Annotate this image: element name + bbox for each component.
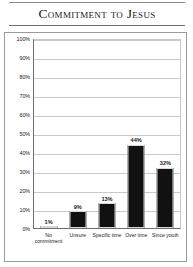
y-axis-tick-label: 40% [20,150,31,156]
bar-value-label: 9% [74,204,82,210]
chart-page: Commitment to Jesus 100%90%80%70%60%50%4… [0,0,193,267]
y-axis-tick-label: 10% [20,207,31,213]
x-axis-tick-label: Specific time [92,232,122,238]
bar-value-label: 1% [45,219,53,225]
bar-slot: 44% [122,39,151,228]
bar-slot: 1% [34,39,63,228]
y-axis-tick-label: 100% [17,36,30,42]
x-axis-tick-label: Since youth [150,232,180,238]
bar-slot: 32% [151,39,180,228]
title-block: Commitment to Jesus [9,2,185,30]
y-axis-tick-label: 90% [20,55,31,61]
y-axis-labels: 100%90%80%70%60%50%40%30%20%10%0% [0,0,33,267]
y-axis-tick-label: 80% [20,74,31,80]
plot-wrapper: 1%9%13%44%32% [33,39,181,229]
y-axis-tick-label: 20% [20,188,31,194]
bar[interactable] [69,211,86,228]
y-axis-tick-label: 50% [20,131,31,137]
y-axis-tick-label: 70% [20,93,31,99]
y-axis-tick-label: 30% [20,169,31,175]
x-axis-tick-label: Over time [121,232,151,238]
title-rule-bottom [9,25,185,26]
page-title: Commitment to Jesus [9,3,185,25]
x-axis-tick-label: Unsure [63,232,93,238]
bar-slot: 9% [63,39,92,228]
x-axis-tick-label: No commitment [34,232,64,245]
bar-value-label: 32% [160,160,171,166]
y-axis-tick-label: 0% [22,226,30,232]
bar[interactable] [40,226,57,228]
bar[interactable] [157,168,174,228]
bar-series: 1%9%13%44%32% [34,39,180,228]
bar-slot: 13% [92,39,121,228]
bar-value-label: 13% [101,196,112,202]
y-axis-tick-label: 60% [20,112,31,118]
bar-value-label: 44% [131,137,142,143]
bar[interactable] [98,203,115,228]
bar[interactable] [128,145,145,228]
x-axis-labels: No commitmentUnsureSpecific timeOver tim… [34,232,180,254]
